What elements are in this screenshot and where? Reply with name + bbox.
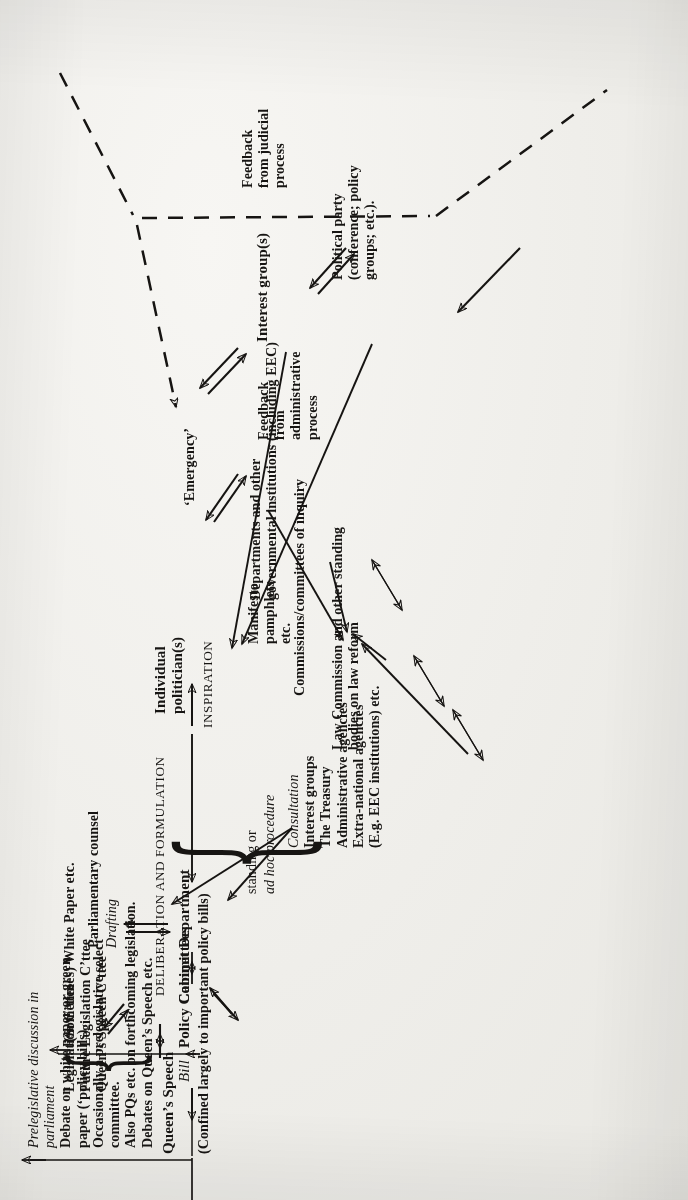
consultation-group: Consultation Interest groups The Treasur… xyxy=(286,686,383,848)
prelegislative-group: Prelegislative discussion in parliament … xyxy=(26,902,156,1148)
prelegislative-item: committee. xyxy=(107,902,123,1148)
feedback-loop-dashed xyxy=(60,73,176,407)
consultation-item: Extra-national agencies xyxy=(351,686,367,848)
stage-label-inspiration: INSPIRATION xyxy=(200,641,215,728)
arrow-emergency-out xyxy=(206,474,238,520)
arrow-law-commission-double xyxy=(453,710,483,760)
consultation-heading: Consultation xyxy=(286,686,302,848)
label-adhoc-procedure: ad hoc procedure xyxy=(262,795,278,894)
node-queens-speech: Queen’s Speech xyxy=(160,1052,177,1154)
prelegislative-item: paper (‘policy bills) xyxy=(75,902,91,1148)
label-standing-or: standing or xyxy=(244,830,260,894)
diagram-canvas: { { Feedback from administrative process… xyxy=(0,0,688,1200)
node-interest-groups: Interest group(s) xyxy=(254,233,271,342)
prelegislative-item: Debate on white paper or green xyxy=(58,902,74,1148)
consultation-item: The Treasury xyxy=(318,686,334,848)
rotated-diagram-canvas: { { Feedback from administrative process… xyxy=(0,0,688,1200)
node-queens-speech-note: (Confined largely to important policy bi… xyxy=(196,893,212,1154)
scanned-page: { { Feedback from administrative process… xyxy=(0,0,688,1200)
node-bill: Bill xyxy=(176,1060,193,1082)
prelegislative-heading-line2: parliament xyxy=(42,902,58,1148)
node-emergency: ‘Emergency’ xyxy=(182,428,198,506)
node-policy-committees: Policy Committees xyxy=(176,927,193,1048)
arrow-judicial-feedback-to-interest-groups xyxy=(458,248,520,312)
prelegislative-item: Debates on Queen’s Speech etc. xyxy=(140,902,156,1148)
consultation-item: Administrative agencies xyxy=(335,686,351,848)
node-manifesto: Manifesto pamphlets etc. xyxy=(246,581,295,644)
arrow-commissions-double xyxy=(414,656,444,706)
prelegislative-item: Occasionally a prelegislative select xyxy=(91,902,107,1148)
arrow-departments-double xyxy=(372,560,402,610)
consultation-item: Interest groups xyxy=(302,686,318,848)
prelegislative-item: Also PQs etc. on forthcoming legislation… xyxy=(123,902,139,1148)
consultation-item: (E.g. EEC institutions) etc. xyxy=(367,686,383,848)
node-feedback-judicial: Feedback from judicial process xyxy=(240,109,289,188)
node-political-party: Political party (conference; policy grou… xyxy=(330,165,379,280)
arrow-emergency-in xyxy=(214,476,246,522)
node-departments: Departments and other governmental insti… xyxy=(248,342,280,600)
prelegislative-heading-line1: Prelegislative discussion in xyxy=(26,902,42,1148)
node-individual-politician: Individual politician(s) xyxy=(152,637,187,714)
arrow-cabinet-to-policy xyxy=(214,994,238,1020)
